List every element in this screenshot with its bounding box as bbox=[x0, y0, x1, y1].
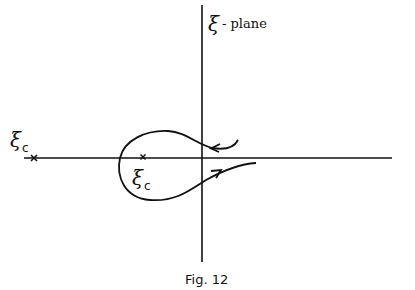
point-symbol: ξ bbox=[132, 166, 143, 190]
plane-label: ξ- plane bbox=[208, 12, 264, 36]
point-label-inner: ξc bbox=[132, 166, 150, 190]
point-subscript: c bbox=[144, 179, 151, 193]
point-symbol: ξ bbox=[10, 128, 21, 152]
plane-symbol: ξ bbox=[208, 12, 219, 36]
figure-caption: Fig. 12 bbox=[185, 272, 228, 287]
point-label-far-left: ξc bbox=[10, 128, 28, 152]
xi-plane-diagram bbox=[0, 0, 415, 290]
plane-text: - plane bbox=[222, 16, 267, 31]
point-subscript: c bbox=[22, 141, 29, 155]
